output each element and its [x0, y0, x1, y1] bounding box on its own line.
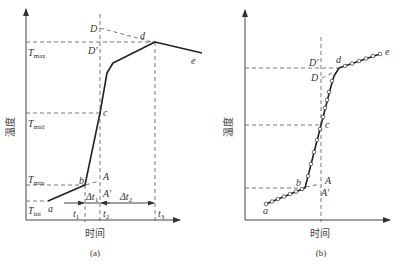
- point-a-label: a: [263, 205, 268, 216]
- tint-label: Tint: [28, 205, 41, 218]
- point-c-label: c: [325, 119, 330, 130]
- tmin-label: Tmin: [28, 174, 45, 187]
- temperature-curve: [48, 42, 202, 201]
- panel-a: Tmax Tmid Tmin Tint a b c d e D D′ A A′ …: [4, 9, 202, 258]
- d-extrapolation: [322, 72, 334, 78]
- dt2-label: Δt2: [119, 191, 133, 204]
- y-axis-title: 温度: [222, 117, 234, 137]
- tmid-label: Tmid: [28, 118, 45, 131]
- measured-curve: [266, 54, 380, 204]
- point-e-label: e: [385, 46, 390, 57]
- point-c-label: c: [103, 107, 108, 118]
- point-d-label: d: [336, 54, 342, 65]
- t1-label: t1: [73, 208, 80, 221]
- point-a-label: a: [48, 203, 53, 214]
- caption-a: (a): [90, 248, 100, 258]
- b-extrapolation: [86, 181, 99, 185]
- point-e-label: e: [191, 55, 196, 66]
- point-D-label: D: [310, 72, 319, 83]
- x-axis-title: 时间: [85, 227, 105, 239]
- x-axis-title: 时间: [310, 227, 330, 239]
- tmax-label: Tmax: [28, 47, 46, 60]
- t2-label: t2: [103, 208, 110, 221]
- point-D-prime-label: D′: [87, 45, 98, 56]
- point-b-label: b: [79, 175, 84, 186]
- dt1-label: Δt1: [85, 191, 99, 204]
- point-A-label: A: [102, 171, 110, 182]
- point-A-prime-label: A′: [102, 188, 112, 199]
- point-b-label: b: [296, 177, 301, 188]
- data-markers: [264, 52, 382, 206]
- b-extrapolation: [306, 184, 320, 187]
- y-axis-title: 温度: [4, 117, 16, 137]
- figure: Tmax Tmid Tmin Tint a b c d e D D′ A A′ …: [0, 0, 401, 265]
- t3-label: t3: [158, 208, 165, 221]
- point-A-prime-label: A′: [320, 187, 330, 198]
- point-D-label: D: [89, 23, 98, 34]
- panel-b: a b c d e D′ D A A′ 温度 时间 (b): [222, 10, 390, 258]
- point-d-label: d: [140, 30, 146, 41]
- point-D-prime-label: D′: [308, 57, 319, 68]
- point-A-label: A: [324, 175, 332, 186]
- caption-b: (b): [316, 248, 327, 258]
